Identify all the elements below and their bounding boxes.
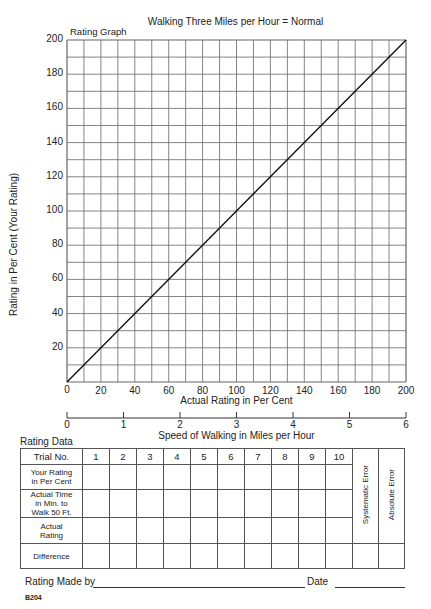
entry-cell[interactable] — [110, 544, 137, 569]
entry-cell[interactable] — [110, 465, 137, 490]
entry-cell[interactable] — [218, 544, 245, 569]
y-tick-label: 40 — [37, 307, 63, 318]
x-axis-label: Actual Rating in Per Cent — [67, 395, 406, 406]
table-header-row: Trial No. 1 2 3 4 5 6 7 8 9 10 Systemati… — [21, 449, 405, 465]
trial-no-header: Trial No. — [21, 449, 83, 465]
row-label-difference: Difference — [21, 544, 83, 569]
entry-cell[interactable] — [272, 465, 299, 490]
speed-tick-label: 5 — [340, 419, 360, 430]
speed-tick-label: 6 — [396, 419, 416, 430]
entry-cell[interactable] — [137, 490, 164, 518]
entry-cell[interactable] — [326, 544, 353, 569]
entry-cell[interactable] — [137, 465, 164, 490]
trial-header: 10 — [326, 449, 353, 465]
entry-cell[interactable] — [245, 465, 272, 490]
trial-header: 7 — [245, 449, 272, 465]
entry-cell[interactable] — [218, 490, 245, 518]
speed-tick-label: 0 — [57, 419, 77, 430]
entry-cell[interactable] — [272, 518, 299, 544]
table-row: Actual Timein Min. toWalk 50 Ft. — [21, 490, 405, 518]
entry-cell[interactable] — [110, 490, 137, 518]
form-number: B204 — [25, 594, 42, 601]
entry-cell[interactable] — [164, 490, 191, 518]
entry-cell[interactable] — [83, 544, 110, 569]
y-axis-label: Rating in Per Cent (Your Rating) — [8, 173, 19, 316]
trial-header: 3 — [137, 449, 164, 465]
entry-cell[interactable] — [218, 465, 245, 490]
entry-cell[interactable] — [326, 490, 353, 518]
absolute-error-cell[interactable]: Absolute Error — [379, 449, 405, 544]
table-row: Your Ratingin Per Cent — [21, 465, 405, 490]
speed-tick-label: 1 — [114, 419, 134, 430]
row-label-your-rating: Your Ratingin Per Cent — [21, 465, 83, 490]
trial-header: 5 — [191, 449, 218, 465]
trial-header: 9 — [299, 449, 326, 465]
y-tick-label: 100 — [37, 204, 63, 215]
rating-data-label: Rating Data — [20, 436, 73, 447]
systematic-error-value-cell[interactable] — [353, 544, 379, 569]
speed-tick-label: 4 — [283, 419, 303, 430]
entry-cell[interactable] — [191, 544, 218, 569]
entry-cell[interactable] — [272, 490, 299, 518]
entry-cell[interactable] — [83, 465, 110, 490]
speed-tick-label: 2 — [170, 419, 190, 430]
y-tick-label: 160 — [37, 101, 63, 112]
y-tick-label: 200 — [37, 33, 63, 44]
entry-cell[interactable] — [299, 518, 326, 544]
entry-cell[interactable] — [326, 518, 353, 544]
entry-cell[interactable] — [164, 465, 191, 490]
entry-cell[interactable] — [272, 544, 299, 569]
rating-made-by-field[interactable] — [93, 587, 305, 588]
y-tick-label: 120 — [37, 170, 63, 181]
trial-header: 4 — [164, 449, 191, 465]
y-tick-label: 140 — [37, 136, 63, 147]
entry-cell[interactable] — [326, 465, 353, 490]
absolute-error-label: Absolute Error — [387, 469, 396, 520]
trial-header: 1 — [83, 449, 110, 465]
entry-cell[interactable] — [83, 518, 110, 544]
entry-cell[interactable] — [245, 518, 272, 544]
speed-tick-label: 3 — [227, 419, 247, 430]
absolute-error-value-cell[interactable] — [379, 544, 405, 569]
y-tick-label: 60 — [37, 272, 63, 283]
table-row: Difference — [21, 544, 405, 569]
systematic-error-cell[interactable]: Systematic Error — [353, 449, 379, 544]
y-tick-label: 180 — [37, 67, 63, 78]
entry-cell[interactable] — [191, 490, 218, 518]
entry-cell[interactable] — [137, 518, 164, 544]
entry-cell[interactable] — [218, 518, 245, 544]
date-field[interactable] — [335, 587, 405, 588]
entry-cell[interactable] — [245, 490, 272, 518]
rating-made-by-label: Rating Made by — [25, 576, 95, 587]
entry-cell[interactable] — [191, 465, 218, 490]
y-tick-label: 20 — [37, 341, 63, 352]
entry-cell[interactable] — [164, 544, 191, 569]
origin-label: 0 — [52, 384, 82, 395]
row-label-actual-rating: ActualRating — [21, 518, 83, 544]
entry-cell[interactable] — [191, 518, 218, 544]
entry-cell[interactable] — [245, 544, 272, 569]
y-tick-label: 80 — [37, 238, 63, 249]
date-label: Date — [307, 576, 328, 587]
entry-cell[interactable] — [299, 490, 326, 518]
table-row: ActualRating — [21, 518, 405, 544]
row-label-actual-time: Actual Timein Min. toWalk 50 Ft. — [21, 490, 83, 518]
rating-data-table: Trial No. 1 2 3 4 5 6 7 8 9 10 Systemati… — [20, 448, 405, 569]
speed-axis-label: Speed of Walking in Miles per Hour — [67, 430, 406, 441]
trial-header: 8 — [272, 449, 299, 465]
entry-cell[interactable] — [164, 518, 191, 544]
entry-cell[interactable] — [110, 518, 137, 544]
systematic-error-label: Systematic Error — [361, 465, 370, 524]
trial-header: 2 — [110, 449, 137, 465]
entry-cell[interactable] — [137, 544, 164, 569]
entry-cell[interactable] — [299, 544, 326, 569]
entry-cell[interactable] — [83, 490, 110, 518]
entry-cell[interactable] — [299, 465, 326, 490]
trial-header: 6 — [218, 449, 245, 465]
